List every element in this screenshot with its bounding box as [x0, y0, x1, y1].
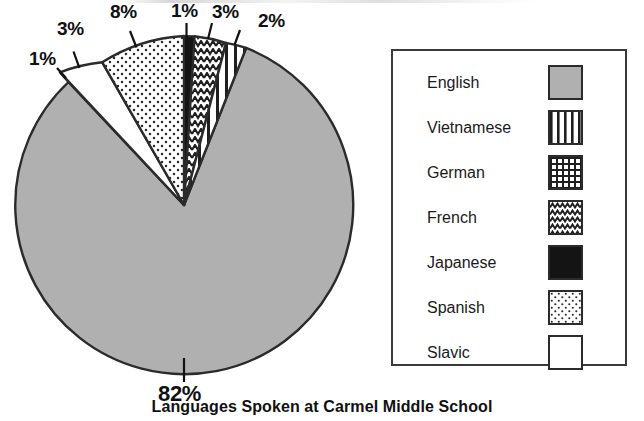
- legend-item-slavic[interactable]: Slavic: [393, 330, 625, 375]
- leader-line-french: [208, 23, 212, 39]
- legend-label-spanish: Spanish: [427, 299, 485, 317]
- legend-label-english: English: [427, 74, 479, 92]
- legend-swatch-french: [548, 200, 583, 235]
- legend-swatch-english: [548, 65, 583, 100]
- legend-item-french[interactable]: French: [393, 195, 625, 240]
- legend-label-vietnamese: Vietnamese: [427, 119, 511, 137]
- legend-label-french: French: [427, 209, 477, 227]
- callout-slavic: 3%: [57, 18, 84, 40]
- legend-swatch-german: [548, 155, 583, 190]
- legend-item-english[interactable]: English: [393, 60, 625, 105]
- legend-swatch-spanish: [548, 290, 583, 325]
- callout-spanish: 8%: [110, 1, 137, 23]
- callout-french: 3%: [212, 1, 239, 23]
- legend-swatch-vietnamese: [548, 110, 583, 145]
- chart-title: Languages Spoken at Carmel Middle School: [0, 398, 644, 416]
- leader-line-slavic: [74, 52, 80, 68]
- legend-swatch-japanese: [548, 245, 583, 280]
- leader-line-spanish: [130, 31, 137, 48]
- leader-line-vietnamese: [235, 30, 241, 45]
- callout-vietnamese: 2%: [258, 10, 285, 32]
- legend-label-japanese: Japanese: [427, 254, 496, 272]
- legend-label-slavic: Slavic: [427, 344, 470, 362]
- legend-item-vietnamese[interactable]: Vietnamese: [393, 105, 625, 150]
- legend-item-german[interactable]: German: [393, 150, 625, 195]
- legend-item-japanese[interactable]: Japanese: [393, 240, 625, 285]
- legend-label-german: German: [427, 164, 485, 182]
- legend: English Vietnamese German French: [391, 49, 627, 366]
- legend-item-spanish[interactable]: Spanish: [393, 285, 625, 330]
- callout-japanese: 1%: [171, 0, 198, 22]
- chart-canvas: 1% 3% 8% 1% 3% 2% 82% English Vietnamese…: [0, 0, 644, 421]
- legend-swatch-slavic: [548, 335, 583, 370]
- callout-german: 1%: [29, 48, 56, 70]
